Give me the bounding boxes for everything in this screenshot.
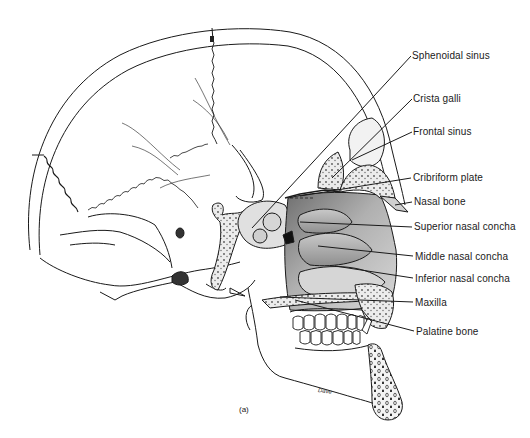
label-cribriform-plate: Cribriform plate [413, 172, 483, 184]
skull-illustration [0, 0, 530, 438]
label-inferior-nasal-concha: Inferior nasal concha [415, 273, 510, 285]
label-maxilla: Maxilla [415, 297, 447, 309]
label-frontal-sinus: Frontal sinus [413, 126, 472, 138]
label-crista-galli: Crista galli [413, 93, 461, 105]
label-sphenoidal-sinus: Sphenoidal sinus [412, 50, 490, 62]
label-middle-nasal-concha: Middle nasal concha [415, 251, 508, 263]
label-superior-nasal-concha: Superior nasal concha [414, 221, 516, 233]
label-nasal-bone: Nasal bone [414, 196, 466, 208]
figure-caption: (a) [239, 405, 249, 414]
label-palatine-bone: Palatine bone [416, 326, 478, 338]
skull-diagram: Sphenoidal sinus Crista galli Frontal si… [0, 0, 530, 438]
